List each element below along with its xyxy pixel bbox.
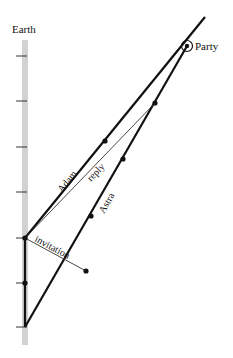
- astra-worldline: [25, 46, 187, 327]
- astra-event-invitation: [83, 268, 88, 273]
- reply-label: reply: [85, 161, 107, 183]
- party-event-dot: [185, 44, 189, 48]
- earth-label: Earth: [12, 23, 36, 35]
- adam-event: [102, 138, 107, 143]
- adam-label: Adam: [55, 168, 79, 194]
- earth-event-top: [22, 235, 27, 240]
- invitation-label: invitation: [33, 233, 72, 261]
- astra-event-2: [120, 156, 125, 161]
- astra-label: Astra: [96, 190, 117, 215]
- earth-event-mid: [22, 280, 27, 285]
- astra-event-1: [88, 213, 93, 218]
- spacetime-diagram: Earth Party Adam reply Astra invitation: [0, 0, 233, 358]
- adam-worldline: [25, 17, 205, 238]
- party-label: Party: [195, 40, 219, 52]
- event-dots: [22, 100, 157, 285]
- astra-event-reply: [152, 100, 157, 105]
